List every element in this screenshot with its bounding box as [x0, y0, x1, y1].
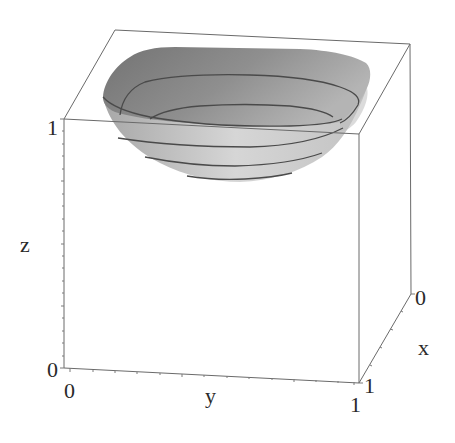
- x-min-label: 0: [415, 285, 426, 310]
- x-axis-label: x: [418, 335, 429, 360]
- z-axis-label: z: [20, 232, 30, 257]
- bowl-surface: [103, 47, 370, 182]
- box-edge-bottom-right-depth: [359, 294, 411, 383]
- box-edge-back-right: [410, 44, 411, 294]
- y-axis-label: y: [205, 383, 216, 408]
- x-axis-ticks: [359, 294, 415, 383]
- surface-plot-3d: 1 0 0 1 0 1 z y x: [0, 0, 455, 443]
- z-min-label: 0: [47, 357, 58, 382]
- x-max-label: 1: [364, 373, 375, 398]
- y-max-label: 1: [350, 392, 361, 417]
- box-edge-back-top: [115, 30, 410, 44]
- z-axis-ticks: [60, 119, 64, 368]
- z-max-label: 1: [47, 115, 58, 140]
- box-edge-front-bottom: [64, 368, 359, 383]
- y-min-label: 0: [64, 378, 75, 403]
